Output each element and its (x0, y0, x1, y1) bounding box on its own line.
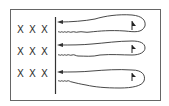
x-mark: X (41, 68, 48, 79)
x-mark: X (41, 24, 48, 35)
x-mark: X (17, 46, 24, 57)
x-mark: X (29, 46, 36, 57)
flag-icon (132, 21, 136, 26)
row-3: X X X (17, 68, 145, 88)
x-mark: X (29, 24, 36, 35)
arrowhead-icon (57, 20, 63, 24)
flag-icon (132, 45, 136, 49)
x-mark: X (41, 46, 48, 57)
loop-diagram: X X X X X X X X X (0, 0, 169, 106)
row-1: X X X (17, 15, 145, 35)
arrowhead-icon (57, 70, 63, 74)
x-mark: X (17, 68, 24, 79)
x-mark: X (17, 24, 24, 35)
flag-icon (132, 73, 136, 77)
arrowhead-icon (57, 43, 63, 47)
row-2: X X X (17, 41, 145, 57)
x-mark: X (29, 68, 36, 79)
